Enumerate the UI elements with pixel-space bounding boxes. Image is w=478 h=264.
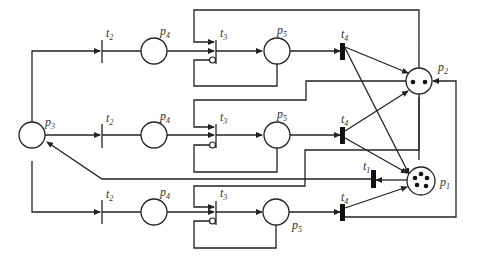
transition-t4-row3 (340, 204, 345, 221)
label-p3: p3 (44, 115, 55, 131)
transition-t1 (371, 170, 376, 188)
label-p1: p1 (439, 175, 450, 191)
label-t4-row3: t4 (341, 190, 348, 206)
arc-t4r3-p1 (345, 187, 407, 208)
label-p4-row3: p4 (159, 185, 170, 201)
token (411, 80, 416, 85)
label-t1: t1 (363, 159, 370, 175)
transition-t4-row1 (340, 43, 345, 60)
token (413, 176, 418, 181)
inhibitor-circle (210, 142, 216, 148)
token (424, 184, 429, 189)
token (423, 80, 428, 85)
label-p5-row2: p5 (276, 107, 287, 123)
label-t4-row1: t4 (341, 27, 348, 43)
place-p4-row3 (141, 199, 167, 225)
place-p4-row2 (141, 122, 167, 148)
place-p5-row3 (263, 199, 289, 225)
transition-t4-row2 (340, 127, 345, 144)
token (419, 172, 424, 177)
label-p5-row3: p5 (291, 218, 302, 234)
arc-p3-t2-row3 (32, 161, 100, 212)
arc-t4r2-p1 (345, 138, 407, 173)
label-t3-row1: t3 (220, 26, 227, 42)
inhibitor-circle (210, 57, 216, 63)
petri-net-diagram: t2 p4 t3 p5 t4 t2 p4 t3 p5 t4 t2 p4 t3 p… (0, 0, 478, 264)
arc-t4r2-p2 (345, 91, 408, 131)
label-t3-row3: t3 (220, 186, 227, 202)
inhibitor-p5-t3-row1 (194, 60, 277, 86)
label-p5-row1: p5 (276, 23, 287, 39)
label-t2-row1: t2 (106, 26, 113, 42)
label-t2-row2: t2 (106, 111, 113, 127)
inhibitor-p5-t3-row3 (194, 221, 276, 248)
place-p5-row1 (264, 38, 290, 64)
inhibitor-p5-t3-row2 (194, 145, 277, 172)
label-t4-row2: t4 (341, 112, 348, 128)
arc-t4r1-p2 (345, 47, 408, 73)
labels: t2 p4 t3 p5 t4 t2 p4 t3 p5 t4 t2 p4 t3 p… (44, 23, 450, 234)
place-p4-row1 (141, 38, 167, 64)
place-p2 (406, 68, 432, 94)
label-p4-row1: p4 (159, 24, 170, 40)
arc-t1-p3 (47, 142, 371, 179)
arc-p2-t3-row3 (194, 97, 419, 207)
token (425, 176, 430, 181)
label-t2-row3: t2 (106, 187, 113, 203)
token (415, 183, 420, 188)
arc-t4r3-p2 (345, 81, 456, 217)
place-p1 (407, 167, 435, 195)
label-t3-row2: t3 (220, 110, 227, 126)
label-p4-row2: p4 (159, 109, 170, 125)
label-p2: p2 (437, 60, 448, 76)
inhibitor-circle (210, 218, 216, 224)
place-p3 (19, 122, 45, 148)
place-p5-row2 (264, 122, 290, 148)
